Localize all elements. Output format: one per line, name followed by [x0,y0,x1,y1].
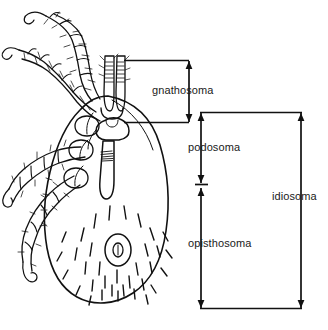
label-idiosoma: idiosoma [272,190,317,202]
figure-background [0,0,328,330]
label-podosoma: podosoma [188,141,240,153]
label-opisthosoma: opisthosoma [188,237,251,249]
tick-anatomy-figure: gnathosoma podosoma opisthosoma idiosoma [0,0,328,330]
label-gnathosoma: gnathosoma [152,84,214,96]
figure-canvas [0,0,328,330]
